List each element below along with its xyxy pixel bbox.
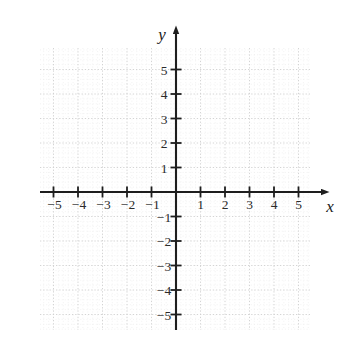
x-tick-label: 3 bbox=[246, 197, 253, 212]
x-tick-label: −5 bbox=[47, 197, 62, 212]
y-tick-label: −4 bbox=[157, 283, 172, 298]
y-tick-label: −3 bbox=[157, 259, 172, 274]
y-tick-label: 5 bbox=[161, 63, 168, 78]
y-tick-label: 2 bbox=[161, 136, 168, 151]
x-axis-label: x bbox=[325, 197, 334, 216]
x-tick-label: −3 bbox=[96, 197, 111, 212]
cartesian-graph: −5−4−3−2−112345 54321−1−2−3−4−5 x y bbox=[0, 0, 340, 357]
x-tick-label: 5 bbox=[295, 197, 302, 212]
y-tick-label: 1 bbox=[161, 161, 168, 176]
y-tick-label: 3 bbox=[161, 112, 168, 127]
x-tick-label: −2 bbox=[121, 197, 135, 212]
y-axis-label: y bbox=[156, 25, 166, 44]
x-tick-label: 1 bbox=[197, 197, 204, 212]
x-tick-label: −4 bbox=[72, 197, 87, 212]
y-tick-label: 4 bbox=[161, 87, 168, 102]
y-tick-label: −2 bbox=[157, 234, 171, 249]
y-tick-label: −5 bbox=[157, 308, 172, 323]
coordinate-plane-figure: −5−4−3−2−112345 54321−1−2−3−4−5 x y bbox=[0, 0, 340, 357]
x-tick-label: 2 bbox=[222, 197, 229, 212]
x-tick-label: 4 bbox=[271, 197, 278, 212]
y-tick-label: −1 bbox=[157, 210, 171, 225]
